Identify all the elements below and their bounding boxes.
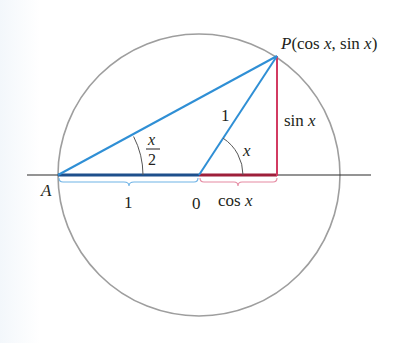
label-origin: 0 <box>192 194 201 213</box>
P-sep: , sin <box>332 34 365 53</box>
label-half-angle-numerator: x <box>147 131 155 148</box>
label-angle-x: x <box>242 141 251 160</box>
label-sin-x: sin x <box>284 111 316 130</box>
label-cos-x: cos x <box>218 191 253 210</box>
sin-text: sin <box>284 111 308 130</box>
half-angle-arc <box>134 137 143 176</box>
label-half-angle-denominator: 2 <box>148 151 156 168</box>
sin-var: x <box>307 111 316 130</box>
label-point-A: A <box>40 181 52 200</box>
label-base-length: 1 <box>124 193 133 212</box>
P-letter: P <box>280 34 291 53</box>
label-radius: 1 <box>221 106 230 125</box>
diagram-svg: A 1 0 cos x sin x 1 x x 2 P(cos x, sin x… <box>0 0 413 343</box>
segment-O-P <box>199 56 277 175</box>
cos-text: cos <box>218 191 245 210</box>
cos-var: x <box>244 191 253 210</box>
brace-cos <box>200 178 277 186</box>
P-close: ) <box>372 34 378 53</box>
brace-base-1 <box>59 178 198 186</box>
unit-circle-diagram: A 1 0 cos x sin x 1 x x 2 P(cos x, sin x… <box>0 0 413 343</box>
label-point-P: P(cos x, sin x) <box>280 34 377 53</box>
P-open: (cos <box>291 34 324 53</box>
angle-x-arc <box>223 138 243 175</box>
